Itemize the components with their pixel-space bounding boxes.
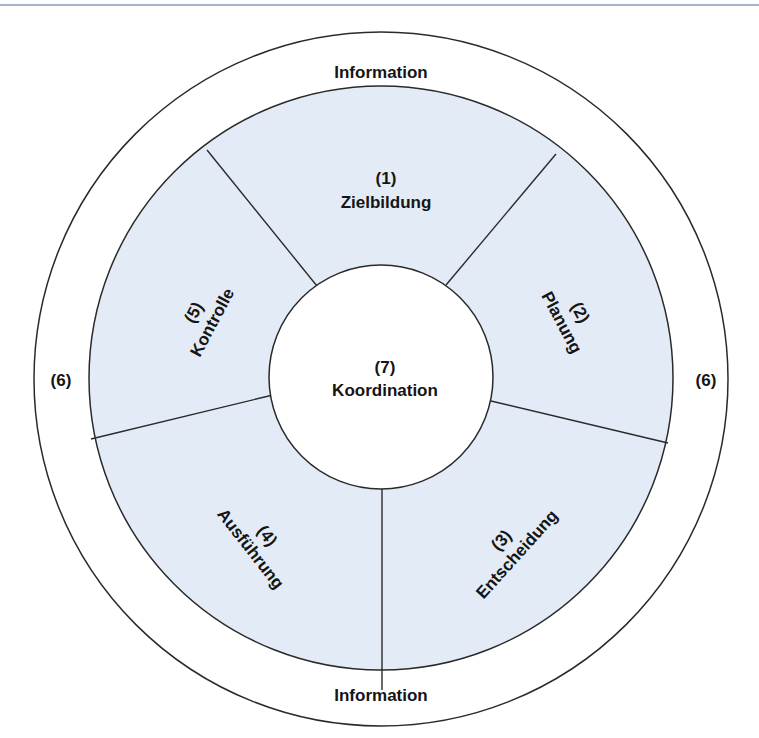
outer-label-right: (6) [696,371,717,390]
segment-number: (1) [376,169,397,188]
center-label: Koordination [332,381,438,400]
outer-label-left: (6) [51,371,72,390]
center-number: (7) [375,358,396,377]
management-cycle-diagram: Information Information (6) (6) (7) Koor… [0,0,759,738]
segment-label: Zielbildung [341,193,432,212]
center-circle [269,265,493,489]
outer-label-top: Information [334,63,428,82]
outer-label-bottom: Information [334,686,428,705]
